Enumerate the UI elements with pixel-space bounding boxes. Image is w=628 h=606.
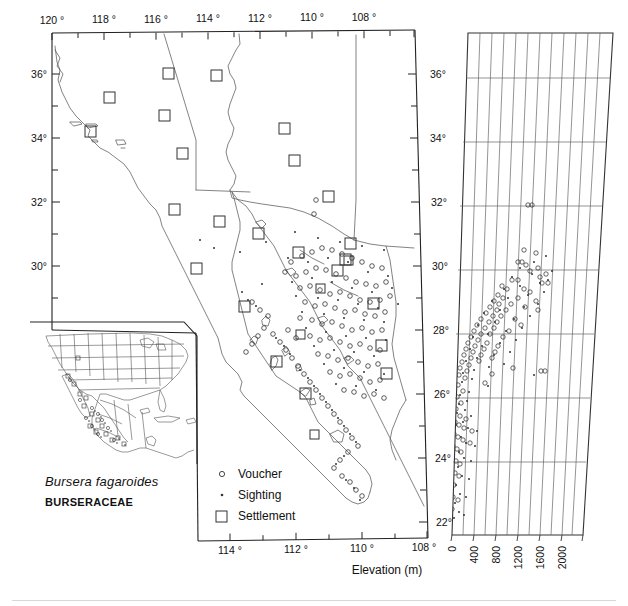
legend-label-settlement: Settlement xyxy=(238,509,295,523)
legend-label-voucher: Voucher xyxy=(238,467,282,481)
elev-x-label: 0 xyxy=(446,546,458,552)
top-lon-label: 116 ° xyxy=(144,13,168,25)
left-lat-label: 32° xyxy=(31,196,47,208)
page-background xyxy=(0,0,628,606)
top-lon-label: 112 ° xyxy=(248,12,272,24)
right-lat-label: 32° xyxy=(431,196,447,208)
legend-label-sighting: Sighting xyxy=(238,488,281,502)
right-lat-label: 36° xyxy=(430,68,446,80)
elev-x-label: 400 xyxy=(468,546,480,564)
species-name: Bursera fagaroides xyxy=(45,474,158,489)
top-lon-label: 110 ° xyxy=(300,11,324,23)
legend-sighting-icon xyxy=(221,494,224,497)
bottom-lon-label: 108 ° xyxy=(412,541,437,553)
right-lat-label: 28° xyxy=(433,324,449,336)
left-lat-label: 36° xyxy=(31,68,47,80)
bottom-lon-label: 112 ° xyxy=(284,543,308,555)
top-lon-label: 114 ° xyxy=(196,12,220,24)
elev-x-label: 800 xyxy=(490,546,502,564)
right-lat-label: 30° xyxy=(432,260,448,272)
right-lat-label: 22° xyxy=(436,516,452,528)
bottom-rule-divider xyxy=(12,600,616,601)
bottom-lon-label: 114 ° xyxy=(218,544,242,556)
top-lon-label: 108 ° xyxy=(352,11,377,23)
bottom-lon-label: 110 ° xyxy=(350,542,374,554)
left-lat-label: 30° xyxy=(31,260,47,272)
top-lon-label: 120 ° xyxy=(40,14,65,26)
elevation-axis-title: Elevation (m) xyxy=(0,563,628,577)
right-lat-label: 34° xyxy=(430,132,446,144)
right-lat-label: 24° xyxy=(435,452,451,464)
family-name: BURSERACEAE xyxy=(45,496,133,508)
top-lon-label: 118 ° xyxy=(92,13,116,25)
right-lat-label: 26° xyxy=(434,388,450,400)
figure-canvas: 120 ° 118 ° 116 ° 114 ° 112 ° 110 ° 108 … xyxy=(0,0,628,606)
left-lat-label: 34° xyxy=(31,132,47,144)
